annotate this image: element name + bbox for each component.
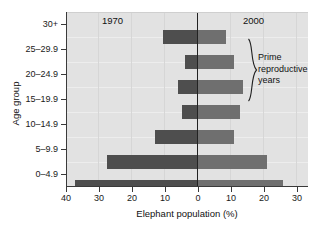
x-tick-label-20-left: 20 [127, 193, 137, 203]
x-tick-mark [99, 187, 100, 192]
y-tick-label-25-29: 25–29.9 [25, 44, 58, 54]
y-tick-label-10-14: 10–14.9 [25, 119, 58, 129]
x-axis-line [66, 186, 308, 187]
x-tick-label-30-left: 30 [94, 193, 104, 203]
y-tick-label-0-4: 0–4.9 [35, 169, 58, 179]
gridline-30-right [296, 13, 297, 186]
bar-2000-30+ [197, 30, 226, 44]
y-tick-label-30plus: 30+ [43, 19, 58, 29]
bar-1970-5–9.9 [107, 155, 197, 169]
bar-2000-20–24.9 [197, 80, 243, 94]
y-tick-mark [61, 99, 67, 100]
prime-note-line-1: Prime [258, 52, 308, 64]
bar-1970-30+ [163, 30, 197, 44]
x-axis-title: Elephant population (%) [66, 208, 308, 219]
zero-axis-line [197, 13, 198, 186]
x-tick-mark [264, 187, 265, 192]
gridline-30-left [98, 13, 99, 186]
y-tick-mark [61, 124, 67, 125]
bar-2000-5–9.9 [197, 155, 267, 169]
bar-1970-10–14.9 [155, 130, 197, 144]
x-tick-label-40-left: 40 [61, 193, 71, 203]
x-tick-label-zero: 0 [195, 193, 200, 203]
bar-1970-25–29.9 [185, 55, 197, 69]
bar-1970-15–19.9 [182, 105, 197, 119]
y-tick-mark [61, 24, 67, 25]
x-tick-mark [198, 187, 199, 192]
prime-reproductive-years-note: Prime reproductive years [258, 52, 308, 87]
y-axis-title: Age group [10, 59, 21, 149]
plot-area [66, 12, 308, 186]
x-tick-mark [165, 187, 166, 192]
y-tick-mark [61, 149, 67, 150]
x-tick-label-10-right: 10 [226, 193, 236, 203]
bar-2000-25–29.9 [197, 55, 234, 69]
x-tick-mark [132, 187, 133, 192]
y-tick-label-15-19: 15–19.9 [25, 94, 58, 104]
bar-1970-20–24.9 [178, 80, 197, 94]
x-tick-label-10-left: 10 [160, 193, 170, 203]
population-pyramid-figure: 30+ 25–29.9 20–24.9 15–19.9 10–14.9 5–9.… [0, 0, 323, 229]
y-tick-mark [61, 174, 67, 175]
y-tick-mark [61, 74, 67, 75]
x-tick-mark [66, 187, 67, 192]
prime-note-line-3: years [258, 75, 308, 87]
y-tick-label-5-9: 5–9.9 [35, 144, 58, 154]
x-tick-label-20-right: 20 [259, 193, 269, 203]
bar-2000-15–19.9 [197, 105, 240, 119]
prime-years-brace-icon [247, 38, 258, 102]
prime-note-line-2: reproductive [258, 64, 308, 76]
y-tick-label-20-24: 20–24.9 [25, 69, 58, 79]
bar-2000-10–14.9 [197, 130, 234, 144]
x-tick-mark [231, 187, 232, 192]
era-label-1970: 1970 [102, 15, 123, 26]
era-label-2000: 2000 [243, 15, 264, 26]
x-tick-label-30-right: 30 [292, 193, 302, 203]
y-tick-mark [61, 49, 67, 50]
x-tick-mark [297, 187, 298, 192]
